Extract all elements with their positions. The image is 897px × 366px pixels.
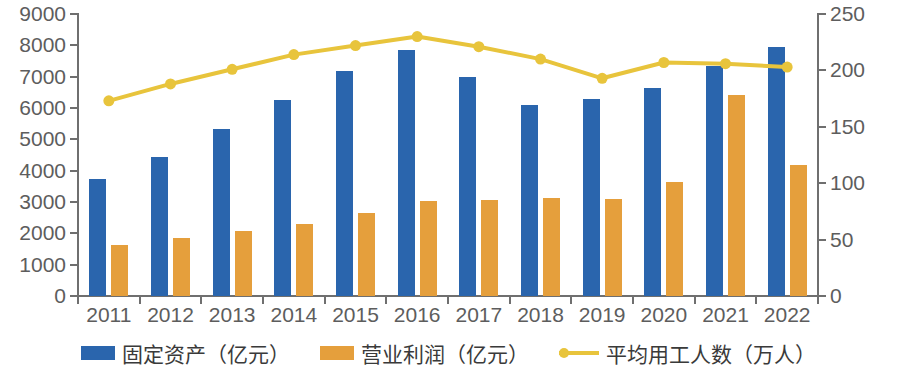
y-axis-left-tick <box>70 138 77 140</box>
line-series-layer <box>78 14 818 296</box>
y-axis-right-tick-label: 200 <box>830 59 897 80</box>
x-axis-tick <box>139 297 141 304</box>
line-marker-2022 <box>782 62 793 73</box>
x-axis-tick <box>570 297 572 304</box>
x-axis-tick <box>755 297 757 304</box>
line-marker-2011 <box>103 95 114 106</box>
y-axis-right-tick <box>819 69 826 71</box>
y-axis-right-tick <box>819 182 826 184</box>
x-axis-tick-label: 2011 <box>78 304 140 325</box>
y-axis-left-tick <box>70 13 77 15</box>
x-axis-tick-label: 2022 <box>756 304 818 325</box>
y-axis-left-tick-label: 4000 <box>4 160 66 181</box>
y-axis-left-tick-label: 2000 <box>4 222 66 243</box>
chart-container: 0100020003000400050006000700080009000 05… <box>0 0 897 366</box>
line-average-employees <box>109 37 787 101</box>
y-axis-right-tick <box>819 239 826 241</box>
y-axis-left-tick-label: 8000 <box>4 34 66 55</box>
line-marker-2017 <box>473 41 484 52</box>
line-marker-2013 <box>227 64 238 75</box>
y-axis-left-tick-label: 7000 <box>4 66 66 87</box>
y-axis-left-tick <box>70 76 77 78</box>
x-axis-tick-label: 2016 <box>386 304 448 325</box>
x-axis-tick-label: 2012 <box>140 304 202 325</box>
legend-line-marker-icon <box>559 346 599 360</box>
x-axis-tick-label: 2020 <box>633 304 695 325</box>
x-axis-tick-label: 2017 <box>448 304 510 325</box>
y-axis-left-tick-label: 0 <box>4 285 66 306</box>
x-axis-tick <box>632 297 634 304</box>
legend-label: 营业利润（亿元） <box>361 338 529 366</box>
x-axis-tick <box>817 297 819 304</box>
chart-legend: 固定资产（亿元）营业利润（亿元）平均用工人数（万人） <box>0 338 897 366</box>
line-marker-2015 <box>350 40 361 51</box>
y-axis-left-tick <box>70 295 77 297</box>
x-axis-tick-label: 2019 <box>571 304 633 325</box>
y-axis-left-tick <box>70 44 77 46</box>
legend-swatch-icon <box>81 346 115 360</box>
y-axis-right-tick-label: 150 <box>830 116 897 137</box>
x-axis-tick <box>385 297 387 304</box>
x-axis-tick <box>694 297 696 304</box>
y-axis-left-tick-label: 6000 <box>4 97 66 118</box>
legend-item-2[interactable]: 营业利润（亿元） <box>320 338 529 366</box>
x-axis-tick-label: 2018 <box>510 304 572 325</box>
legend-item-1[interactable]: 固定资产（亿元） <box>81 338 290 366</box>
line-marker-2012 <box>165 78 176 89</box>
line-marker-2020 <box>658 57 669 68</box>
x-axis-tick <box>509 297 511 304</box>
legend-label: 平均用工人数（万人） <box>606 338 816 366</box>
y-axis-right-tick-label: 100 <box>830 172 897 193</box>
y-axis-right-tick-label: 50 <box>830 229 897 250</box>
x-axis-tick <box>262 297 264 304</box>
y-axis-left-tick-label: 1000 <box>4 254 66 275</box>
x-axis-tick-label: 2015 <box>325 304 387 325</box>
line-marker-2014 <box>288 49 299 60</box>
line-marker-2021 <box>720 58 731 69</box>
legend-swatch-icon <box>320 346 354 360</box>
y-axis-left-tick-label: 3000 <box>4 191 66 212</box>
y-axis-left-tick-label: 9000 <box>4 3 66 24</box>
legend-item-3[interactable]: 平均用工人数（万人） <box>559 338 816 366</box>
y-axis-right-tick-label: 0 <box>830 285 897 306</box>
x-axis-tick-label: 2013 <box>201 304 263 325</box>
y-axis-left-tick-label: 5000 <box>4 128 66 149</box>
x-axis-tick <box>324 297 326 304</box>
line-marker-2016 <box>412 31 423 42</box>
y-axis-left-tick <box>70 232 77 234</box>
x-axis-tick <box>447 297 449 304</box>
x-axis-tick <box>77 297 79 304</box>
y-axis-right-tick <box>819 13 826 15</box>
y-axis-left-tick <box>70 264 77 266</box>
y-axis-left-tick <box>70 107 77 109</box>
y-axis-left-tick <box>70 170 77 172</box>
line-marker-2019 <box>597 73 608 84</box>
x-axis-tick-label: 2014 <box>263 304 325 325</box>
y-axis-left-tick <box>70 201 77 203</box>
legend-label: 固定资产（亿元） <box>122 338 290 366</box>
y-axis-right-tick-label: 250 <box>830 3 897 24</box>
x-axis-tick-label: 2021 <box>695 304 757 325</box>
x-axis-tick <box>200 297 202 304</box>
y-axis-right-tick <box>819 126 826 128</box>
y-axis-right-tick <box>819 295 826 297</box>
line-marker-2018 <box>535 54 546 65</box>
